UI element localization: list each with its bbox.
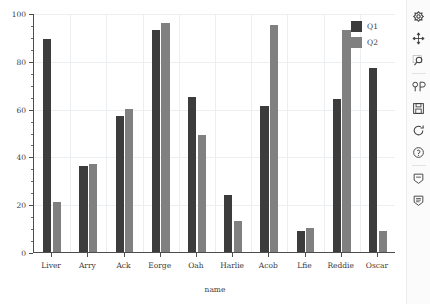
bar-q1-ack xyxy=(116,116,124,252)
x-tick-label: Liver xyxy=(41,261,61,270)
figure-toolbar xyxy=(406,0,430,304)
y-tick-minor xyxy=(31,98,33,99)
bar-q2-oah xyxy=(198,135,206,252)
pan-move-icon[interactable] xyxy=(409,28,429,48)
y-tick-minor xyxy=(31,181,33,182)
bar-q2-harlie xyxy=(234,221,242,252)
bar-q1-eorge xyxy=(152,30,160,252)
y-tick xyxy=(29,110,33,111)
x-tick xyxy=(268,253,269,257)
x-tick-label: Oscar xyxy=(366,261,388,270)
y-tick-minor xyxy=(31,86,33,87)
legend: Q1Q2 xyxy=(351,21,378,48)
toolbar-divider xyxy=(412,165,426,166)
y-tick-minor xyxy=(31,74,33,75)
y-tick-label: 40 xyxy=(0,153,26,162)
annotate-icon[interactable] xyxy=(409,168,429,188)
legend-label: Q2 xyxy=(367,39,378,47)
y-tick-label: 60 xyxy=(0,105,26,114)
x-axis-title: name xyxy=(0,285,430,294)
figure-canvas: 020406080100 LiverArryAckEorgeOahHarlieA… xyxy=(0,0,430,304)
y-tick-minor xyxy=(31,134,33,135)
x-tick-label: Reddie xyxy=(327,261,354,270)
x-tick-label: Arry xyxy=(79,261,96,270)
legend-item: Q1 xyxy=(351,21,378,32)
bar-q2-reddie xyxy=(342,30,350,252)
y-tick xyxy=(29,157,33,158)
save-disk-icon[interactable] xyxy=(409,98,429,118)
subplot-config-icon[interactable] xyxy=(409,76,429,96)
refresh-icon[interactable] xyxy=(409,120,429,140)
x-tick xyxy=(51,253,52,257)
vertical-gridline xyxy=(179,14,180,252)
x-tick xyxy=(160,253,161,257)
legend-item: Q2 xyxy=(351,37,378,48)
vertical-gridline xyxy=(251,14,252,252)
x-tick-label: Lfie xyxy=(297,261,311,270)
help-question-icon[interactable] xyxy=(409,142,429,162)
bar-q2-acob xyxy=(270,25,278,252)
legend-swatch xyxy=(351,21,362,32)
bar-q1-reddie xyxy=(333,99,341,252)
x-tick xyxy=(377,253,378,257)
bar-q1-lfie xyxy=(297,231,305,253)
y-tick xyxy=(29,14,33,15)
y-tick-minor xyxy=(31,122,33,123)
bar-q1-oscar xyxy=(369,68,377,252)
legend-label: Q1 xyxy=(367,23,378,31)
x-tick-label: Harlie xyxy=(220,261,244,270)
y-tick xyxy=(29,253,33,254)
x-tick xyxy=(196,253,197,257)
y-tick-label: 20 xyxy=(0,201,26,210)
x-tick-label: Eorge xyxy=(148,261,171,270)
x-tick-label: Oah xyxy=(188,261,203,270)
y-tick xyxy=(29,62,33,63)
vertical-gridline xyxy=(360,14,361,252)
toolbar-divider xyxy=(412,73,426,74)
y-tick-minor xyxy=(31,145,33,146)
x-tick xyxy=(232,253,233,257)
bar-q1-liver xyxy=(43,39,51,252)
vertical-gridline xyxy=(143,14,144,252)
y-tick-minor xyxy=(31,38,33,39)
y-tick-minor xyxy=(31,169,33,170)
bar-q2-eorge xyxy=(161,23,169,252)
bar-q2-ack xyxy=(125,109,133,252)
vertical-gridline xyxy=(287,14,288,252)
bar-q1-oah xyxy=(188,97,196,252)
y-tick-minor xyxy=(31,241,33,242)
vertical-gridline xyxy=(70,14,71,252)
vertical-gridline xyxy=(324,14,325,252)
x-tick-label: Ack xyxy=(116,261,130,270)
x-tick xyxy=(305,253,306,257)
vertical-gridline xyxy=(215,14,216,252)
legend-swatch xyxy=(351,37,362,48)
bar-q1-harlie xyxy=(224,195,232,252)
y-tick xyxy=(29,205,33,206)
y-tick-minor xyxy=(31,50,33,51)
vertical-gridline xyxy=(106,14,107,252)
x-tick-label: Acob xyxy=(259,261,278,270)
bar-q1-acob xyxy=(260,106,268,252)
x-tick xyxy=(124,253,125,257)
x-tick xyxy=(87,253,88,257)
y-tick-label: 80 xyxy=(0,57,26,66)
zoom-magnifier-icon[interactable] xyxy=(409,50,429,70)
bar-q2-liver xyxy=(53,202,61,252)
y-tick-minor xyxy=(31,193,33,194)
bar-q1-arry xyxy=(79,166,87,252)
annotate-list-icon[interactable] xyxy=(409,190,429,210)
bar-q2-oscar xyxy=(379,231,387,253)
y-tick-minor xyxy=(31,229,33,230)
bar-q2-arry xyxy=(89,164,97,252)
y-tick-minor xyxy=(31,217,33,218)
x-tick xyxy=(341,253,342,257)
plot-area xyxy=(33,14,395,253)
home-icon[interactable] xyxy=(409,6,429,26)
bar-q2-lfie xyxy=(306,228,314,252)
y-tick-label: 100 xyxy=(0,10,26,19)
y-tick-label: 0 xyxy=(0,249,26,258)
y-tick-minor xyxy=(31,26,33,27)
